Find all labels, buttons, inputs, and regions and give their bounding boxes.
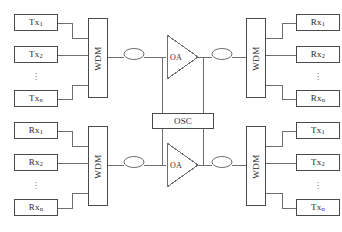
link-wdm-tx1 [266, 131, 296, 146]
wdm-mux-top-left[interactable]: WDM [88, 18, 108, 98]
link-tx1-wdm [58, 23, 88, 38]
ellipsis-bottom-left: ... [32, 179, 40, 188]
optical-network-diagram: Tx1 Tx2 ... Txn WDM Rx1 Rx2 ... Rxn WDM [0, 0, 342, 232]
terminal-rx2-west[interactable]: Rx2 [14, 154, 58, 171]
terminal-label: Tx1 [29, 18, 43, 28]
wdm-label: WDM [252, 154, 261, 179]
link-wdm-rx1 [266, 23, 296, 38]
ellipsis-bottom-right: ... [314, 179, 322, 188]
terminal-txn-west[interactable]: Txn [14, 90, 58, 107]
coupler-lower-west-icon [124, 157, 144, 168]
wdm-label: WDM [252, 46, 261, 71]
coupler-upper-east-icon [212, 49, 232, 60]
ellipsis-top-left: ... [32, 70, 40, 79]
coupler-lower-east-icon [212, 157, 232, 168]
terminal-label: Rxn [29, 203, 43, 213]
terminal-label: Rx2 [29, 158, 43, 168]
terminal-label: Rxn [311, 94, 325, 104]
optical-amplifier-lower-label: OA [170, 161, 182, 170]
terminal-rxn-west[interactable]: Rxn [14, 199, 58, 216]
terminal-label: Txn [29, 94, 43, 104]
wdm-demux-top-right[interactable]: WDM [246, 18, 266, 98]
wdm-label: WDM [94, 154, 103, 179]
terminal-label: Txn [311, 203, 325, 213]
link-wdm-rxn [266, 85, 296, 99]
terminal-rx2-east[interactable]: Rx2 [296, 46, 340, 63]
terminal-tx1-west[interactable]: Tx1 [14, 14, 58, 31]
terminal-label: Rx1 [29, 126, 43, 136]
terminal-label: Tx2 [311, 158, 325, 168]
terminal-rxn-east[interactable]: Rxn [296, 90, 340, 107]
coupler-upper-west-icon [124, 49, 144, 60]
terminal-tx1-east[interactable]: Tx1 [296, 122, 340, 139]
link-rx1-wdm [58, 131, 88, 146]
terminal-rx1-west[interactable]: Rx1 [14, 122, 58, 139]
terminal-label: Rx2 [311, 50, 325, 60]
terminal-rx1-east[interactable]: Rx1 [296, 14, 340, 31]
terminal-label: Tx2 [29, 50, 43, 60]
optical-amplifier-upper-label: OA [170, 53, 182, 62]
wdm-mux-bottom-left[interactable]: WDM [88, 126, 108, 206]
link-wdm-txn [266, 193, 296, 208]
link-txn-wdm [58, 85, 88, 99]
terminal-tx2-east[interactable]: Tx2 [296, 154, 340, 171]
terminal-label: Rx1 [311, 18, 325, 28]
link-rxn-wdm [58, 193, 88, 208]
wdm-demux-bottom-right[interactable]: WDM [246, 126, 266, 206]
terminal-label: Tx1 [311, 126, 325, 136]
ellipsis-top-right: ... [314, 70, 322, 79]
wdm-label: WDM [94, 46, 103, 71]
terminal-tx2-west[interactable]: Tx2 [14, 46, 58, 63]
osc-label: OSC [174, 117, 192, 126]
terminal-txn-east[interactable]: Txn [296, 199, 340, 216]
osc-box[interactable]: OSC [152, 113, 214, 129]
